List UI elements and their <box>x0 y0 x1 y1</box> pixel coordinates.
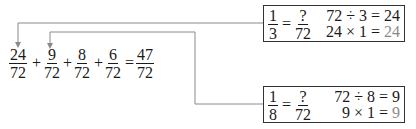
denominator: 72 <box>10 64 26 80</box>
conversion-box-one-eighth: 1 8 = ? 72 72 ÷ 8 = 9 9 × 1 = 9 <box>263 86 405 123</box>
plus-operator: + <box>32 55 41 71</box>
fraction-term-4: 6 72 <box>105 47 121 80</box>
fraction-result: 47 72 <box>136 47 154 80</box>
fraction-term-3: 8 72 <box>74 47 90 80</box>
plus-operator: + <box>63 55 72 71</box>
numerator: ? <box>298 89 307 106</box>
multiplication-step: 24 × 1 = 24 <box>326 24 400 40</box>
multiplication-expression: 9 × 1 = <box>342 104 392 121</box>
division-step: 72 ÷ 3 = 24 <box>326 8 400 24</box>
numerator: 9 <box>47 47 57 64</box>
fraction-term-2: 9 72 <box>44 47 60 80</box>
multiplication-result: 24 <box>384 23 400 40</box>
denominator: 72 <box>295 25 311 41</box>
multiplication-expression: 24 × 1 = <box>326 23 384 40</box>
equals-operator: = <box>282 16 291 32</box>
denominator: 8 <box>269 106 277 122</box>
multiplication-step: 9 × 1 = 9 <box>342 105 400 121</box>
denominator: 72 <box>137 64 153 80</box>
multiplication-result: 9 <box>392 104 400 121</box>
denominator: 72 <box>295 106 311 122</box>
denominator: 72 <box>44 64 60 80</box>
fraction-unknown: ? 72 <box>295 89 311 122</box>
equals-operator: = <box>282 97 291 113</box>
numerator: ? <box>298 8 307 25</box>
numerator: 1 <box>268 8 278 25</box>
denominator: 72 <box>74 64 90 80</box>
numerator: 1 <box>268 89 278 106</box>
fraction-one-eighth: 1 8 <box>268 89 278 122</box>
numerator: 8 <box>77 47 87 64</box>
denominator: 3 <box>269 25 277 41</box>
fraction-term-1: 24 72 <box>9 47 27 80</box>
numerator: 47 <box>136 47 154 64</box>
fraction-unknown: ? 72 <box>295 8 311 41</box>
numerator: 6 <box>108 47 118 64</box>
division-step: 72 ÷ 8 = 9 <box>334 89 400 105</box>
fraction-one-third: 1 3 <box>268 8 278 41</box>
denominator: 72 <box>105 64 121 80</box>
numerator: 24 <box>9 47 27 64</box>
equals-operator: = <box>125 55 134 71</box>
plus-operator: + <box>94 55 103 71</box>
conversion-box-one-third: 1 3 = ? 72 72 ÷ 3 = 24 24 × 1 = 24 <box>263 5 405 42</box>
